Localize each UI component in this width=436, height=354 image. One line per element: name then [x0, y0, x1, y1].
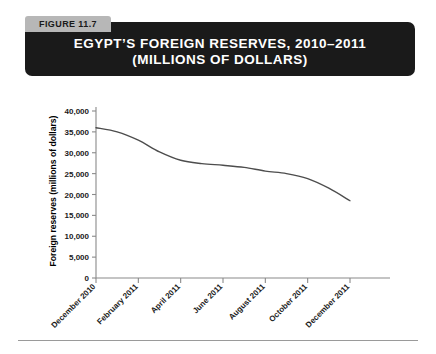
y-axis-tick-label: 15,000 — [65, 211, 90, 220]
figure-title-line-2: (MILLIONS OF DOLLARS) — [25, 52, 415, 68]
chart-container: Foreign reserves (millions of dollars) 0… — [0, 86, 436, 336]
x-axis-tick-labels: December 2010February 2011April 2011June… — [50, 282, 352, 330]
y-axis-tick-label: 5,000 — [69, 253, 90, 262]
y-axis-tick-marks — [92, 111, 96, 278]
x-axis-tick-label: December 2010 — [50, 282, 98, 330]
y-axis-title: Foreign reserves (millions of dollars) — [48, 115, 58, 266]
figure-number-tab: FIGURE 11.7 — [25, 16, 111, 32]
y-axis-tick-labels: 05,00010,00015,00020,00025,00030,00035,0… — [65, 107, 90, 283]
y-axis-tick-label: 25,000 — [65, 170, 90, 179]
chart-axes — [96, 107, 390, 278]
y-axis-tick-label: 0 — [85, 274, 90, 283]
figure-title-line-1: EGYPT’S FOREIGN RESERVES, 2010–2011 — [25, 36, 415, 52]
x-axis-tick-label: April 2011 — [149, 282, 182, 315]
footer-divider — [18, 340, 418, 341]
x-axis-tick-label: June 2011 — [191, 282, 225, 316]
x-axis-tick-label: August 2011 — [227, 282, 267, 322]
x-axis-tick-label: December 2011 — [304, 282, 352, 330]
y-axis-tick-label: 20,000 — [65, 191, 90, 200]
x-axis-tick-label: February 2011 — [95, 282, 140, 327]
line-chart: Foreign reserves (millions of dollars) 0… — [0, 86, 436, 336]
data-series-line — [96, 128, 350, 201]
figure-title: EGYPT’S FOREIGN RESERVES, 2010–2011 (MIL… — [25, 36, 415, 68]
x-axis-tick-marks — [96, 278, 350, 283]
y-axis-title-text: Foreign reserves (millions of dollars) — [48, 115, 58, 266]
y-axis-tick-label: 10,000 — [65, 232, 90, 241]
y-axis-tick-label: 30,000 — [65, 149, 90, 158]
x-axis-tick-label: October 2011 — [267, 282, 309, 324]
y-axis-tick-label: 35,000 — [65, 128, 90, 137]
figure-number-label: FIGURE 11.7 — [39, 19, 97, 29]
y-axis-tick-label: 40,000 — [65, 107, 90, 116]
